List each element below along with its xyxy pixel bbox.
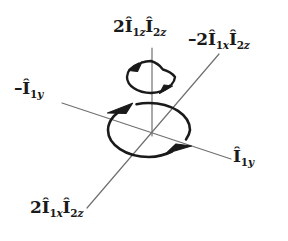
label-upper-right-operator2-sub: 2z — [237, 39, 250, 51]
label-left: –Î1y — [14, 80, 43, 97]
label-upper-right-operator2-symbol: Î — [229, 31, 237, 48]
label-right-operator1-spin: 1 — [241, 156, 248, 168]
label-right-operator1-axis: y — [248, 156, 254, 168]
small-rotation-arc — [127, 61, 175, 94]
label-z-operator1-sub: 1z — [132, 26, 145, 38]
label-z-operator1-spin: 1 — [132, 26, 139, 38]
label-lower-left-operator2-axis: z — [77, 207, 83, 219]
label-upper-right-operator1-sub: 1x — [216, 39, 229, 51]
small-arc-arrowhead-left — [129, 62, 143, 72]
label-left-operator1-sub: 1y — [30, 88, 43, 100]
label-lower-left-operator2-sub: 2z — [70, 207, 83, 219]
label-z-operator2-axis: z — [160, 26, 166, 38]
large-rotation-arc — [108, 103, 192, 157]
label-lower-left-operator1-spin: 1 — [49, 207, 56, 219]
label-upper-right-operator2-axis: z — [244, 39, 250, 51]
label-upper-right-operator1-spin: 1 — [216, 39, 223, 51]
product-operator-diagram: 2Î1zÎ2z –2Î1xÎ2z –Î1y Î1y 2Î1xÎ2z — [0, 0, 288, 241]
axis-lines — [62, 48, 231, 208]
label-z-coefficient: 2 — [113, 16, 125, 36]
label-upper-right-operator2-spin: 2 — [237, 39, 244, 51]
label-right-operator1-symbol: Î — [233, 148, 241, 165]
label-right-operator1-sub: 1y — [241, 156, 254, 168]
label-upper-right: –2Î1xÎ2z — [188, 31, 250, 48]
large-arc-arrowhead-left — [108, 103, 133, 113]
label-left-operator1-axis: y — [37, 88, 43, 100]
label-left-coefficient: – — [14, 78, 22, 98]
large-arc-arrowhead-right — [166, 144, 192, 154]
label-right: Î1y — [233, 148, 254, 165]
label-z-operator2-symbol: Î — [145, 18, 153, 35]
large-arc-path-top — [137, 103, 191, 140]
label-z-operator2-sub: 2z — [153, 26, 166, 38]
label-lower-left: 2Î1xÎ2z — [30, 199, 83, 216]
label-upper-right-coefficient: –2 — [188, 29, 208, 49]
large-arc-path-left — [108, 107, 172, 158]
label-lower-left-coefficient: 2 — [30, 197, 42, 217]
label-z-axis: 2Î1zÎ2z — [113, 18, 166, 35]
y-axis-line — [62, 103, 231, 159]
label-upper-right-operator1-symbol: Î — [208, 31, 216, 48]
label-left-operator1-symbol: Î — [22, 80, 30, 97]
small-arc-arrowhead-right — [160, 85, 173, 94]
label-lower-left-operator1-sub: 1x — [49, 207, 62, 219]
small-arc-path-right — [163, 70, 175, 85]
